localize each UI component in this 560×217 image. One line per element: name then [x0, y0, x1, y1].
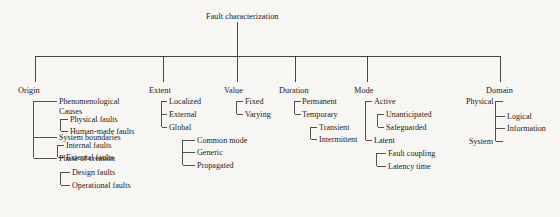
node-varying: Varying	[245, 111, 271, 119]
node-logical: Logical	[507, 113, 532, 121]
node-latency-time: Latency time	[388, 163, 431, 171]
node-active: Active	[374, 98, 396, 106]
node-safeguarded: Safeguarded	[386, 124, 427, 132]
branch-label-mode: Mode	[354, 87, 373, 95]
branch-label-value: Value	[224, 87, 243, 95]
node-localized: Localized	[169, 98, 201, 106]
node-common-mode: Common mode	[197, 137, 247, 145]
branch-label-extent: Extent	[149, 87, 171, 95]
node-design-faults: Design faults	[72, 169, 115, 177]
node-generic: Generic	[197, 149, 223, 157]
branch-label-origin: Origin	[18, 87, 40, 95]
diagram-canvas: Fault characterization Origin Extent Val…	[0, 0, 560, 217]
node-latent: Latent	[374, 137, 395, 145]
node-operational-faults: Operational faults	[72, 182, 131, 190]
node-transient: Transient	[319, 124, 349, 132]
node-fault-coupling: Fault coupling	[388, 150, 435, 158]
node-internal-faults: Internal faults	[66, 142, 111, 150]
node-phenomenological-causes: Phenomenological Causes	[59, 97, 121, 116]
node-external: External	[169, 111, 197, 119]
node-global: Global	[169, 124, 191, 132]
node-permanent: Permanent	[302, 98, 337, 106]
node-propagated: Propagated	[197, 162, 234, 170]
node-intermittent: Intermittent	[319, 136, 357, 144]
node-physical: Physical	[466, 98, 494, 106]
node-system: System	[469, 138, 493, 146]
root-label: Fault characterization	[206, 13, 279, 21]
node-information: Information	[507, 125, 546, 133]
node-fixed: Fixed	[245, 98, 264, 106]
node-phase-of-creation: Phase of creation	[59, 155, 115, 163]
node-unanticipated: Unanticipated	[386, 111, 432, 119]
branch-label-duration: Duration	[279, 87, 309, 95]
branch-label-domain: Domain	[486, 87, 513, 95]
node-physical-faults: Physical faults	[70, 116, 118, 124]
node-temporary: Temporary	[302, 111, 338, 119]
